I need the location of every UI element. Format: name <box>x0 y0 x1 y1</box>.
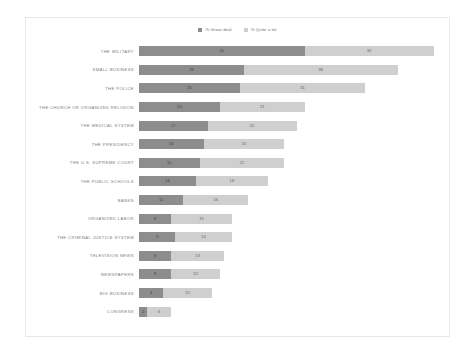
bar-segment-great-deal[interactable]: 8 <box>139 251 171 261</box>
chart-row-label: THE PRESIDENCY <box>26 142 139 147</box>
chart-card: % Great deal % Quite a lot THE MILITARY4… <box>25 17 450 337</box>
chart-bar-area: 2638 <box>139 61 451 80</box>
bar-segment-quite-a_lot[interactable]: 22 <box>208 121 297 131</box>
stacked-bar[interactable]: 1418 <box>139 176 268 186</box>
stacked-bar[interactable]: 1521 <box>139 158 284 168</box>
bar-value-label: 32 <box>367 49 372 53</box>
legend-label-quite-a-lot: % Quite a lot <box>251 27 277 32</box>
bar-value-label: 12 <box>185 291 190 295</box>
stacked-bar[interactable]: 1722 <box>139 121 297 131</box>
chart-legend: % Great deal % Quite a lot <box>26 27 449 32</box>
bar-value-label: 9 <box>156 235 158 239</box>
bar-segment-quite-a_lot[interactable]: 12 <box>171 269 219 279</box>
chart-bar-area: 4132 <box>139 42 451 61</box>
bar-segment-quite-a_lot[interactable]: 20 <box>204 139 285 149</box>
bar-segment-quite-a_lot[interactable]: 32 <box>305 46 434 56</box>
chart-bar-area: 1722 <box>139 116 451 135</box>
bar-value-label: 26 <box>189 68 194 72</box>
bar-segment-quite-a_lot[interactable]: 12 <box>163 288 211 298</box>
chart-row: THE U.S. SUPREME COURT1521 <box>26 154 451 173</box>
bar-segment-quite-a_lot[interactable]: 38 <box>244 65 398 75</box>
chart-row-label: BIG BUSINESS <box>26 291 139 296</box>
chart-bar-area: 26 <box>139 302 451 321</box>
bar-value-label: 13 <box>195 254 200 258</box>
chart-bar-area: 914 <box>139 228 451 247</box>
bar-segment-quite-a_lot[interactable]: 13 <box>171 251 224 261</box>
stacked-bar[interactable]: 1116 <box>139 195 248 205</box>
chart-row-label: THE MILITARY <box>26 49 139 54</box>
bar-value-label: 11 <box>159 198 163 202</box>
legend-item-great-deal[interactable]: % Great deal <box>198 27 231 32</box>
chart-row: NEWSPAPERS812 <box>26 265 451 284</box>
legend-swatch-quite-a-lot <box>244 28 248 32</box>
stacked-bar[interactable]: 914 <box>139 232 232 242</box>
bar-segment-great-deal[interactable]: 15 <box>139 158 200 168</box>
bar-segment-great-deal[interactable]: 14 <box>139 176 196 186</box>
bar-segment-great-deal[interactable]: 20 <box>139 102 220 112</box>
bar-value-label: 6 <box>158 310 160 314</box>
bar-segment-great-deal[interactable]: 11 <box>139 195 183 205</box>
bar-segment-quite-a_lot[interactable]: 14 <box>175 232 232 242</box>
stacked-bar[interactable]: 813 <box>139 251 224 261</box>
legend-swatch-great-deal <box>198 28 202 32</box>
bar-segment-great-deal[interactable]: 6 <box>139 288 163 298</box>
chart-bar-area: 1116 <box>139 191 451 210</box>
chart-row-label: ORGANIZED LABOR <box>26 216 139 221</box>
bar-segment-great-deal[interactable]: 2 <box>139 307 147 317</box>
stacked-bar[interactable]: 812 <box>139 269 220 279</box>
stacked-bar[interactable]: 2531 <box>139 83 365 93</box>
bar-value-label: 8 <box>154 254 156 258</box>
chart-row: THE PUBLIC SCHOOLS1418 <box>26 172 451 191</box>
chart-row-label: CONGRESS <box>26 309 139 314</box>
bar-value-label: 16 <box>169 142 174 146</box>
bar-segment-great-deal[interactable]: 41 <box>139 46 305 56</box>
chart-row-label: THE MEDICAL SYSTEM <box>26 123 139 128</box>
stacked-bar[interactable]: 26 <box>139 307 171 317</box>
stacked-bar[interactable]: 2638 <box>139 65 398 75</box>
bar-segment-quite-a_lot[interactable]: 31 <box>240 83 365 93</box>
bar-segment-quite-a_lot[interactable]: 15 <box>171 214 232 224</box>
legend-label-great-deal: % Great deal <box>205 27 231 32</box>
bar-value-label: 6 <box>150 291 152 295</box>
bar-segment-quite-a_lot[interactable]: 18 <box>196 176 269 186</box>
bar-segment-great-deal[interactable]: 8 <box>139 214 171 224</box>
bar-segment-great-deal[interactable]: 25 <box>139 83 240 93</box>
chart-plot-area: THE MILITARY4132SMALL BUSINESS2638THE PO… <box>26 42 451 334</box>
bar-segment-great-deal[interactable]: 17 <box>139 121 208 131</box>
bar-value-label: 2 <box>142 310 144 314</box>
chart-bar-area: 815 <box>139 209 451 228</box>
chart-row-label: THE CRIMINAL JUSTICE SYSTEM <box>26 235 139 240</box>
bar-segment-quite-a_lot[interactable]: 21 <box>200 158 285 168</box>
bar-value-label: 18 <box>230 179 235 183</box>
bar-segment-great-deal[interactable]: 9 <box>139 232 175 242</box>
chart-row-label: NEWSPAPERS <box>26 272 139 277</box>
bar-value-label: 8 <box>154 272 156 276</box>
stacked-bar[interactable]: 4132 <box>139 46 434 56</box>
chart-row: TELEVISION NEWS813 <box>26 247 451 266</box>
chart-row-label: THE U.S. SUPREME COURT <box>26 160 139 165</box>
stacked-bar[interactable]: 612 <box>139 288 212 298</box>
bar-segment-quite-a_lot[interactable]: 21 <box>220 102 305 112</box>
chart-bar-area: 812 <box>139 265 451 284</box>
stacked-bar[interactable]: 815 <box>139 214 232 224</box>
chart-row-label: THE PUBLIC SCHOOLS <box>26 179 139 184</box>
bar-value-label: 21 <box>260 105 265 109</box>
chart-bar-area: 2021 <box>139 98 451 117</box>
bar-segment-quite-a_lot[interactable]: 6 <box>147 307 171 317</box>
bar-value-label: 21 <box>240 161 245 165</box>
bar-segment-quite-a_lot[interactable]: 16 <box>183 195 248 205</box>
bar-value-label: 16 <box>213 198 218 202</box>
legend-item-quite-a-lot[interactable]: % Quite a lot <box>244 27 277 32</box>
bar-value-label: 17 <box>171 124 176 128</box>
chart-row: BANKS1116 <box>26 191 451 210</box>
stacked-bar[interactable]: 1620 <box>139 139 284 149</box>
stacked-bar[interactable]: 2021 <box>139 102 305 112</box>
bar-segment-great-deal[interactable]: 26 <box>139 65 244 75</box>
chart-row-label: SMALL BUSINESS <box>26 67 139 72</box>
bar-value-label: 8 <box>154 217 156 221</box>
chart-bar-area: 1418 <box>139 172 451 191</box>
bar-segment-great-deal[interactable]: 16 <box>139 139 204 149</box>
chart-row: THE POLICE2531 <box>26 79 451 98</box>
bar-value-label: 25 <box>187 86 192 90</box>
bar-segment-great-deal[interactable]: 8 <box>139 269 171 279</box>
